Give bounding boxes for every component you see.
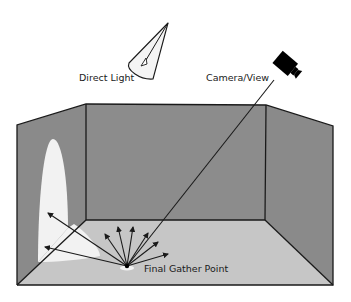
diagram-canvas: Direct Light Camera/View Final Gather Po… [0,0,351,302]
camera-label: Camera/View [206,72,269,83]
camera-icon [272,51,304,81]
direct-light-icon [129,23,168,79]
back-wall [86,104,266,220]
direct-light-label: Direct Light [79,72,134,83]
room [17,104,333,285]
gather-point-label: Final Gather Point [144,263,228,274]
gather-point-dot [125,264,129,268]
